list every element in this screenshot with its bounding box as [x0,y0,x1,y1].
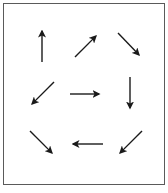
arrow-up-right-icon [75,36,96,57]
arrow-down-right-icon [118,33,139,55]
arrow-down-left-icon [32,82,54,104]
arrow-down-right-icon [30,131,52,153]
arrow-grid [0,0,168,193]
arrow-down-left-icon [120,131,142,153]
